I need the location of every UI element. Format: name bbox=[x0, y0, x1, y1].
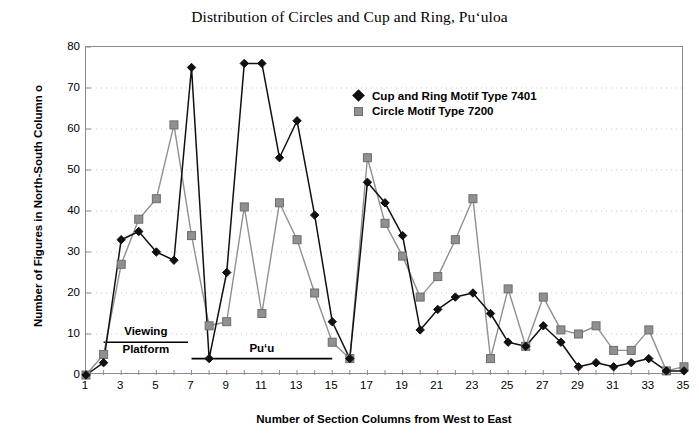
x-tick-label: 19 bbox=[387, 379, 417, 391]
y-tick-label: 20 bbox=[52, 286, 80, 298]
diamond-marker-icon bbox=[352, 89, 368, 103]
annotation-label: Pu‘u bbox=[249, 342, 274, 354]
x-tick-label: 7 bbox=[176, 379, 206, 391]
legend-item-circle: Circle Motif Type 7200 bbox=[352, 103, 537, 118]
x-axis-title: Number of Section Columns from West to E… bbox=[85, 413, 683, 425]
x-tick-label: 27 bbox=[527, 379, 557, 391]
x-tick-label: 3 bbox=[105, 379, 135, 391]
y-tick-label: 30 bbox=[52, 245, 80, 257]
x-tick-label: 15 bbox=[316, 379, 346, 391]
y-tick-label: 50 bbox=[52, 163, 80, 175]
annotation-label: Viewing bbox=[124, 325, 167, 337]
x-tick-label: 1 bbox=[70, 379, 100, 391]
x-axis-tick-labels: 1357911131517192123252729313335 bbox=[85, 379, 683, 397]
square-marker-icon bbox=[352, 104, 368, 118]
x-tick-label: 9 bbox=[211, 379, 241, 391]
x-tick-label: 13 bbox=[281, 379, 311, 391]
x-tick-label: 11 bbox=[246, 379, 276, 391]
x-tick-label: 29 bbox=[562, 379, 592, 391]
legend-label-circle: Circle Motif Type 7200 bbox=[372, 103, 494, 118]
x-tick-label: 25 bbox=[492, 379, 522, 391]
y-tick-label: 40 bbox=[52, 204, 80, 216]
legend: Cup and Ring Motif Type 7401 Circle Moti… bbox=[352, 88, 537, 118]
y-tick-label: 10 bbox=[52, 327, 80, 339]
legend-item-cup-and-ring: Cup and Ring Motif Type 7401 bbox=[352, 88, 537, 103]
chart-figure: Distribution of Circles and Cup and Ring… bbox=[0, 0, 699, 437]
x-tick-label: 5 bbox=[140, 379, 170, 391]
y-tick-label: 60 bbox=[52, 122, 80, 134]
x-tick-label: 17 bbox=[351, 379, 381, 391]
chart-title: Distribution of Circles and Cup and Ring… bbox=[0, 8, 699, 26]
x-tick-label: 31 bbox=[598, 379, 628, 391]
legend-label-cup-and-ring: Cup and Ring Motif Type 7401 bbox=[372, 88, 537, 103]
annotation-label: Platform bbox=[122, 343, 169, 355]
y-axis-tick-labels: 01020304050607080 bbox=[50, 46, 80, 374]
y-axis-title: Number of Figures in North-South Column … bbox=[32, 46, 44, 366]
y-tick-label: 80 bbox=[52, 40, 80, 52]
x-tick-label: 33 bbox=[633, 379, 663, 391]
x-tick-label: 21 bbox=[422, 379, 452, 391]
y-tick-label: 70 bbox=[52, 81, 80, 93]
x-tick-label: 23 bbox=[457, 379, 487, 391]
x-tick-label: 35 bbox=[668, 379, 698, 391]
